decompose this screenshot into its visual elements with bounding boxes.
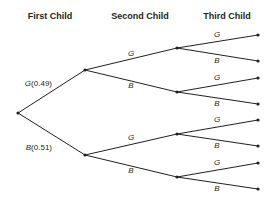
leaf-node-6 [256, 161, 259, 164]
label-third-2: G [214, 73, 220, 82]
edge-first-0 [18, 70, 85, 113]
leaf-node-5 [256, 144, 259, 147]
label-third-5: B [214, 141, 220, 150]
node-second-3 [175, 175, 178, 178]
label-second-1: B [128, 81, 134, 90]
root-node [16, 111, 19, 114]
node-second-2 [175, 132, 178, 135]
node-second-1 [175, 90, 178, 93]
leaf-node-4 [256, 118, 259, 121]
label-second-3: B [128, 166, 134, 175]
node-first-1 [83, 153, 86, 156]
label-first-B: B(0.51) [26, 143, 53, 152]
leaf-node-3 [256, 102, 259, 105]
node-first-0 [83, 68, 86, 71]
label-third-0: G [214, 30, 220, 39]
label-third-1: B [214, 56, 220, 65]
label-third-6: G [214, 158, 220, 167]
label-second-0: G [128, 49, 134, 58]
label-third-3: B [214, 99, 220, 108]
label-second-2: G [128, 133, 134, 142]
tree-diagram: G(0.49)B(0.51)GBGBGBGBGBGB [0, 0, 272, 204]
label-third-4: G [214, 115, 220, 124]
leaf-node-7 [256, 187, 259, 190]
node-second-0 [175, 46, 178, 49]
label-third-7: B [214, 184, 220, 193]
leaf-node-0 [256, 33, 259, 36]
leaf-node-2 [256, 76, 259, 79]
label-first-G: G(0.49) [25, 79, 52, 88]
leaf-node-1 [256, 59, 259, 62]
